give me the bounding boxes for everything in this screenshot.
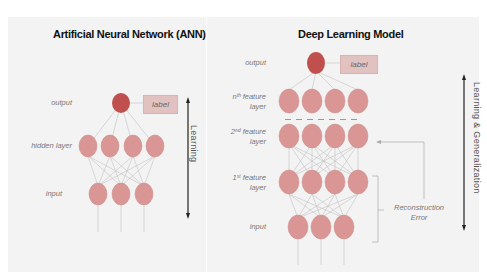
deep-input-label: input <box>232 222 266 232</box>
ann-learning-text: Learning <box>189 125 199 162</box>
learning-generalization-text: Learning & Generalization <box>472 82 482 194</box>
deep-2nd-layer-label: 2ⁿᵈ feature layer <box>222 127 266 147</box>
deep-output-label: output <box>228 58 266 68</box>
deep-1st-layer-label: 1ˢᵗ feature layer <box>222 173 266 193</box>
ann-output-node <box>112 93 130 113</box>
deep-title: Deep Learning Model <box>298 28 404 40</box>
deep-output-node <box>307 52 325 74</box>
ann-title: Artificial Neural Network (ANN) <box>53 28 206 40</box>
ann-hidden-label: hidden layer <box>22 141 72 151</box>
ann-label-box: label <box>143 95 178 114</box>
ann-output-label: output <box>30 98 72 108</box>
reconstruction-error-label: Reconstruction Error <box>384 203 454 223</box>
deep-label-box: label <box>340 55 378 74</box>
deep-nth-layer-label: nᵗʰ feature layer <box>222 92 266 112</box>
ann-input-label: input <box>30 189 62 199</box>
